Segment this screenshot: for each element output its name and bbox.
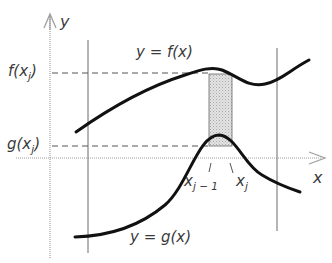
g-xj-close: ): [34, 135, 40, 153]
g-xj-base: g(x: [7, 135, 31, 153]
y-axis-label: y: [60, 14, 69, 30]
x-j-minus-1-base: x: [184, 172, 193, 190]
f-curve-label-text: y = f(x): [136, 43, 193, 61]
x-axis: [16, 152, 325, 164]
g-curve-label-text: y = g(x): [130, 228, 191, 246]
x-j-minus-1-label: xj − 1: [184, 174, 218, 191]
f-xj-label: f(xj): [8, 64, 37, 81]
curve-f: [76, 60, 309, 132]
area-between-curves-diagram: y x y = f(x) y = g(x) f(xj) g(xj) xj − 1…: [0, 0, 332, 263]
f-xj-close: ): [31, 62, 37, 80]
f-xj-base: f(x: [8, 62, 28, 80]
f-curve-label: y = f(x): [136, 45, 193, 60]
tick-x-j: [230, 163, 233, 173]
x-axis-label-text: x: [313, 168, 322, 187]
x-j-sub: j: [245, 180, 248, 192]
tick-x-j-minus-1: [209, 163, 211, 172]
y-axis-label-text: y: [60, 12, 69, 31]
x-axis-label: x: [313, 170, 322, 186]
x-j-label: xj: [236, 174, 248, 191]
g-xj-label: g(xj): [7, 137, 40, 154]
y-axis: [44, 14, 56, 258]
x-j-base: x: [236, 172, 245, 190]
g-curve-label: y = g(x): [130, 230, 191, 245]
x-j-minus-1-sub: j − 1: [193, 180, 218, 192]
